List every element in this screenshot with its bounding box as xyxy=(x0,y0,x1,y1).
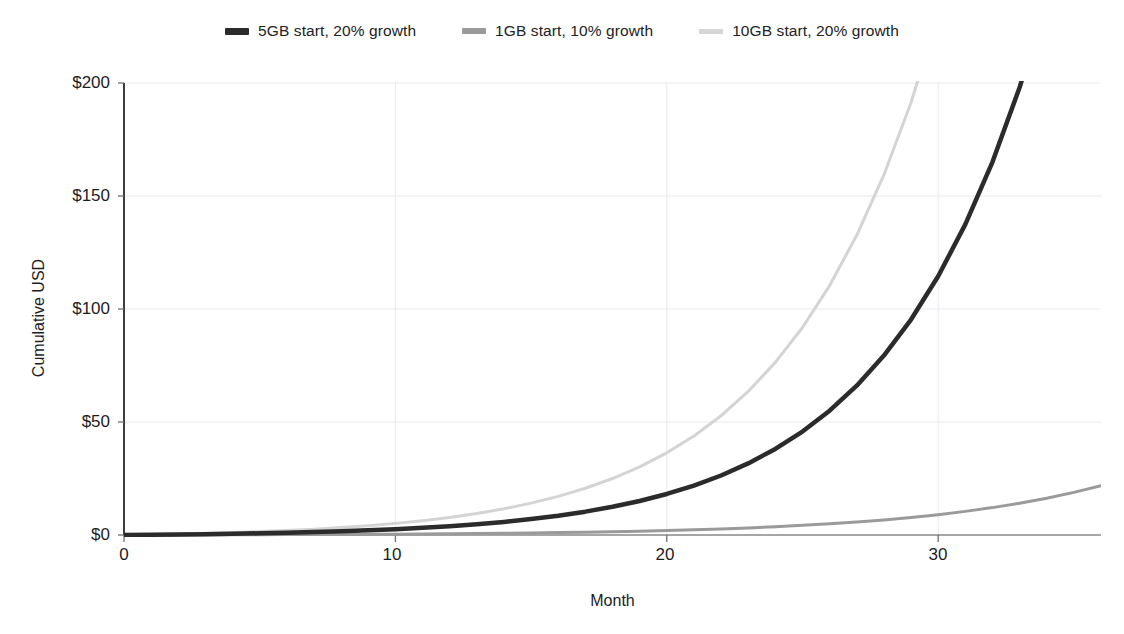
chart-page: 5GB start, 20% growth 1GB start, 10% gro… xyxy=(0,0,1124,634)
y-axis-title-holder: Cumulative USD xyxy=(14,0,40,634)
x-tick-label-20: 20 xyxy=(656,545,675,565)
x-tick-label-10: 10 xyxy=(383,545,402,565)
x-tick-label-30: 30 xyxy=(929,545,948,565)
series-paths xyxy=(124,0,1101,535)
x-tick-label-0: 0 xyxy=(119,545,128,565)
tick-marks xyxy=(118,83,938,542)
y-axis-title: Cumulative USD xyxy=(30,218,48,418)
x-axis-title: Month xyxy=(124,592,1101,610)
plot-canvas xyxy=(0,0,1124,634)
gridlines xyxy=(124,83,1101,535)
line-chart: $200 $150 $100 $50 $0 0 10 20 30 Cumulat… xyxy=(0,0,1124,634)
